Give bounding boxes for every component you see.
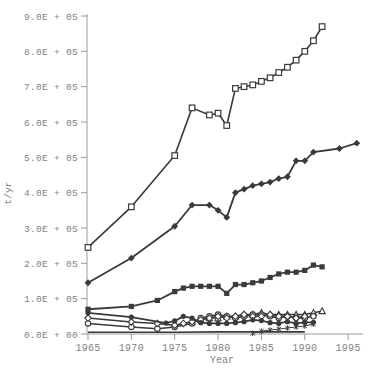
marker-circle-filled <box>250 317 255 322</box>
y-tick-label: 1.0E + 05 <box>24 294 78 305</box>
marker-square-open <box>259 79 265 85</box>
marker-circle-filled <box>259 318 264 323</box>
marker-triangle-open <box>319 308 325 314</box>
marker-square-filled <box>233 282 238 287</box>
y-tick-label: 2.0E + 05 <box>24 259 78 270</box>
marker-square-open <box>293 57 299 63</box>
axis-frame <box>87 14 363 334</box>
marker-diamond-filled <box>249 182 256 189</box>
marker-diamond-filled <box>267 179 274 186</box>
marker-diamond-open <box>128 319 134 325</box>
marker-diamond-filled <box>336 145 343 152</box>
marker-square-filled <box>294 270 299 275</box>
marker-square-filled <box>189 284 194 289</box>
marker-diamond-filled <box>284 173 291 180</box>
marker-square-open <box>285 64 291 70</box>
marker-square-open <box>276 70 282 76</box>
marker-square-open <box>250 82 256 88</box>
marker-diamond-filled <box>353 140 360 147</box>
marker-diamond-filled <box>258 180 265 187</box>
marker-circle-open <box>311 314 316 319</box>
marker-circle-filled <box>241 319 246 324</box>
marker-square-open <box>302 49 308 55</box>
marker-circle-filled <box>189 316 194 321</box>
marker-circle-filled <box>276 321 281 326</box>
marker-square-filled <box>172 289 177 294</box>
marker-diamond-open <box>85 315 91 321</box>
marker-square-filled <box>320 264 325 269</box>
marker-square-open <box>267 75 273 81</box>
marker-circle-filled <box>224 321 229 326</box>
marker-circle-filled <box>198 320 203 325</box>
marker-circle-filled <box>85 310 90 315</box>
marker-square-filled <box>129 304 134 309</box>
marker-square-open <box>172 153 178 159</box>
x-tick-label: 1990 <box>292 343 317 354</box>
marker-circle-filled <box>129 314 134 319</box>
x-tick-label: 1985 <box>249 343 274 354</box>
marker-diamond-filled <box>275 175 282 182</box>
y-tick-label: 5.0E + 05 <box>24 153 78 164</box>
marker-circle-filled <box>267 320 272 325</box>
marker-square-open <box>189 105 195 111</box>
x-tick-label: 1970 <box>119 343 144 354</box>
marker-square-filled <box>250 280 255 285</box>
marker-square-open <box>311 38 317 44</box>
x-tick-label: 1965 <box>75 343 100 354</box>
marker-circle-filled <box>172 318 177 323</box>
marker-square-open <box>207 112 213 118</box>
marker-square-filled <box>215 284 220 289</box>
marker-square-filled <box>155 298 160 303</box>
y-tick-label: 8.0E + 05 <box>24 47 78 58</box>
x-tick-label: 1975 <box>162 343 187 354</box>
marker-square-filled <box>259 278 264 283</box>
marker-square-open <box>233 86 239 92</box>
marker-circle-filled <box>163 320 168 325</box>
y-tick-label: 6.0E + 05 <box>24 118 78 129</box>
marker-diamond-filled <box>241 186 248 193</box>
line-chart: 0.0E + 001.0E + 052.0E + 053.0E + 054.0E… <box>0 0 370 376</box>
y-axis-title: t/yr <box>3 182 14 205</box>
marker-circle-filled <box>207 321 212 326</box>
marker-square-open <box>241 84 247 90</box>
y-tick-label: 0.0E + 00 <box>24 330 78 341</box>
marker-square-filled <box>241 282 246 287</box>
marker-diamond-filled <box>293 157 300 164</box>
y-tick-label: 9.0E + 05 <box>24 12 78 23</box>
marker-square-filled <box>198 284 203 289</box>
marker-circle-filled <box>181 314 186 319</box>
marker-square-open <box>129 204 135 210</box>
marker-square-filled <box>285 270 290 275</box>
y-tick-label: 7.0E + 05 <box>24 82 78 93</box>
x-tick-label: 1980 <box>205 343 230 354</box>
marker-diamond-filled <box>232 189 239 196</box>
marker-square-filled <box>267 275 272 280</box>
y-tick-label: 4.0E + 05 <box>24 188 78 199</box>
marker-square-filled <box>207 284 212 289</box>
marker-square-open <box>319 24 325 30</box>
marker-circle-filled <box>285 319 290 324</box>
x-tick-label: 1995 <box>336 343 361 354</box>
y-tick-label: 3.0E + 05 <box>24 224 78 235</box>
marker-square-filled <box>224 291 229 296</box>
marker-square-open <box>224 123 230 129</box>
x-axis-title: Year <box>210 355 234 366</box>
series-filled-diamond-large-line <box>88 143 357 283</box>
series-open-square-line <box>88 27 322 248</box>
marker-square-open <box>85 245 91 251</box>
marker-square-filled <box>276 271 281 276</box>
marker-square-filled <box>181 285 186 290</box>
marker-square-open <box>215 110 221 116</box>
marker-square-filled <box>302 268 307 273</box>
chart-figure: 0.0E + 001.0E + 052.0E + 053.0E + 054.0E… <box>0 0 370 376</box>
marker-circle-filled <box>215 321 220 326</box>
marker-square-filled <box>311 263 316 268</box>
marker-circle-filled <box>233 320 238 325</box>
